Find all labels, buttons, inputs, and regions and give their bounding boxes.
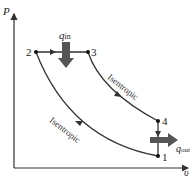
state-3-label: 3 (91, 47, 97, 58)
arrow-2-3-icon (50, 49, 56, 55)
state-1-point (156, 154, 160, 158)
heat-out-arrow-icon (150, 133, 178, 147)
axes (14, 14, 188, 168)
state-2-point (34, 50, 38, 54)
state-2-label: 2 (26, 47, 32, 58)
y-axis-label: P (3, 6, 10, 17)
state-4-point (156, 119, 160, 123)
heat-in-arrow-icon (58, 42, 74, 68)
heat-in-label: qin (59, 30, 71, 41)
arrow-4-1-icon (155, 131, 161, 137)
state-3-point (86, 50, 90, 54)
process-1-2 (36, 52, 158, 156)
x-axis-label: υ (184, 168, 189, 178)
state-4-label: 4 (162, 116, 168, 127)
arrow-1-2-icon (75, 121, 83, 126)
state-1-label: 1 (162, 152, 168, 163)
heat-out-label: qout (176, 144, 190, 154)
